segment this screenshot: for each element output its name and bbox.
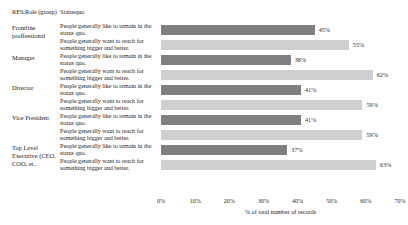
x-axis-tick: 40% — [292, 196, 303, 206]
bar-value-label: 41% — [305, 84, 316, 95]
bar-value-label: 55% — [353, 39, 364, 50]
x-axis-tick: 0% — [157, 196, 165, 206]
bar[interactable] — [161, 85, 301, 95]
row-label-category: People generally want to reach for somet… — [60, 128, 159, 142]
row-label-category: People generally like to remain in the s… — [60, 53, 159, 67]
bar-value-label: 62% — [377, 69, 388, 80]
bar-track: 45% — [161, 22, 400, 37]
row-label-role: Frontline proffessional — [12, 24, 60, 40]
column-header-role: RES:Role (group) — [12, 6, 58, 18]
bar-value-label: 59% — [366, 99, 377, 110]
bar-value-label: 41% — [305, 114, 316, 125]
bar[interactable] — [161, 55, 291, 65]
row-label-category: People generally like to remain in the s… — [60, 113, 159, 127]
row-label-category: People generally want to reach for somet… — [60, 158, 159, 172]
row-label-role: Top Level Executive (CEO, COO, et.. — [12, 144, 60, 168]
row-label-category: People generally like to remain in the s… — [60, 83, 159, 97]
bar-value-label: 45% — [319, 24, 330, 35]
bar[interactable] — [161, 145, 287, 155]
bar-value-label: 63% — [380, 159, 391, 170]
bar-track: 62% — [161, 67, 400, 82]
row-label-category: People generally like to remain in the s… — [60, 23, 159, 37]
row-label-category: People generally want to reach for somet… — [60, 38, 159, 52]
column-header-category: Statusquo — [60, 6, 160, 18]
bar-track: 37% — [161, 142, 400, 157]
bar[interactable] — [161, 70, 373, 80]
bar[interactable] — [161, 100, 362, 110]
bar-track: 41% — [161, 112, 400, 127]
x-axis-tick: 60% — [360, 196, 371, 206]
bar-value-label: 59% — [366, 129, 377, 140]
row-label-category: People generally want to reach for somet… — [60, 98, 159, 112]
bar-chart: RES:Role (group) Statusquo Frontline pro… — [0, 0, 408, 225]
bar[interactable] — [161, 25, 315, 35]
row-label-role: Vice President — [12, 114, 60, 122]
bar-value-label: 37% — [291, 144, 302, 155]
bar[interactable] — [161, 130, 362, 140]
x-axis-tick: 10% — [190, 196, 201, 206]
bar[interactable] — [161, 40, 349, 50]
bar[interactable] — [161, 160, 376, 170]
x-axis-title: % of total number of records — [161, 207, 400, 217]
bar-track: 63% — [161, 157, 400, 172]
row-label-category: People generally like to remain in the s… — [60, 143, 159, 157]
row-label-category: People generally want to reach for somet… — [60, 68, 159, 82]
bar-track: 59% — [161, 127, 400, 142]
x-axis-tick: 70% — [395, 196, 406, 206]
bar-track: 59% — [161, 97, 400, 112]
row-label-role: Director — [12, 84, 60, 92]
x-axis: 0%10%20%30%40%50%60%70% — [161, 196, 400, 206]
bar-track: 55% — [161, 37, 400, 52]
bar-track: 41% — [161, 82, 400, 97]
bar[interactable] — [161, 115, 301, 125]
bar-track: 38% — [161, 52, 400, 67]
x-axis-tick: 50% — [326, 196, 337, 206]
x-axis-tick: 30% — [258, 196, 269, 206]
x-axis-tick: 20% — [224, 196, 235, 206]
row-label-role: Manager — [12, 54, 60, 62]
bar-value-label: 38% — [295, 54, 306, 65]
